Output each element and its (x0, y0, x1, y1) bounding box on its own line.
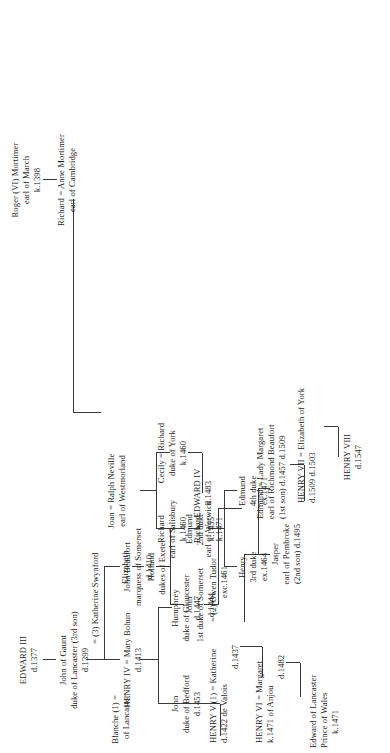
node-henry-3rd-duke: Henry 3rd duke ex.1464 (237, 533, 271, 601)
node-joan-ralph-neville: Joan = Ralph Neville earl of Westmorland (106, 439, 128, 543)
connector-henry4-bar (158, 608, 159, 704)
node-line: Richard = Anne Mortimer (56, 104, 67, 256)
connector-gaunt-left-drop (104, 659, 120, 660)
node-line: HENRY IV = Mary Bohun (122, 603, 133, 717)
node-line: duke of Bedford (181, 666, 192, 742)
node-line: Prince of Wales (319, 638, 330, 748)
node-line: earl of Pembroke (281, 511, 292, 597)
node-line: Edward of Lancaster (308, 638, 319, 748)
node-line: earl of March (21, 128, 32, 232)
node-line: d.1509 d.1503 (307, 353, 318, 503)
connector-henry6-bar (300, 663, 301, 697)
node-line: duke of Lancaster (3rd son) (69, 601, 80, 719)
node-line: d.1453 (192, 666, 203, 742)
node-owen-tudor: = (2) Owen Tudor exc.1461 (208, 522, 230, 622)
genealogy-chart: EDWARD III d.1377 Blanche (1) = of Lanca… (0, 0, 390, 753)
node-line: Cecily = Richard (156, 415, 167, 491)
connector-gaunt-bar (104, 567, 105, 660)
connector-som2-edmund (224, 490, 237, 491)
node-line: Humphrey (170, 566, 181, 650)
node-line: (1st son) d.1457 d.1509 (277, 379, 288, 519)
node-line: HENRY VI = Margaret (254, 619, 265, 743)
node-line: earl of Salisbury (167, 491, 178, 567)
node-line: John of Gaunt (58, 601, 69, 719)
node-line: d.1410 (144, 515, 155, 619)
node-line: John (184, 561, 195, 649)
node-line: Jasper (270, 511, 281, 597)
node-john-duke-of-bedford: John duke of Bedford d.1453 (170, 666, 204, 742)
node-line: 1st duke of Somerset (195, 561, 206, 649)
connector-cambridge-drop (73, 412, 101, 413)
node-line: exc.1461 (219, 522, 230, 622)
node-henry-vii-elizabeth-of-york: HENRY VII = Elizabeth of York d.1509 d.1… (296, 353, 318, 503)
connector-henry6-stem (286, 662, 300, 663)
node-henry-iv: HENRY IV = Mary Bohun d.1413 (122, 603, 144, 717)
node-richard-earl-of-cambridge: Richard = Anne Mortimer earl of Cambridg… (56, 104, 78, 256)
node-edward-of-lancaster: Edward of Lancaster Prince of Wales k.14… (308, 638, 342, 748)
node-line: d.1482 (276, 619, 287, 743)
node-line: HENRY V (1) = Katherine (208, 611, 219, 743)
node-line: HENRY VII = Elizabeth of York (296, 353, 307, 503)
node-line: John (170, 666, 181, 742)
node-cecily-richard-duke-of-york: Cecily = Richard duke of York k.1460 (156, 415, 190, 491)
node-edward-iii: EDWARD III d.1377 (18, 620, 40, 700)
node-line: earl of Westmorland (117, 439, 128, 543)
node-jasper-earl-of-pembroke: Jasper earl of Pembroke (2nd son) d.1495 (270, 511, 304, 597)
node-line: d.1377 (29, 620, 40, 700)
node-line: = (2) Owen Tudor (208, 522, 219, 622)
node-line: Edmund (237, 457, 248, 525)
node-line: Edmund (184, 495, 195, 563)
node-henry-vi-margaret-of-anjou: HENRY VI = Margaret k.1471 of Anjou d.14… (254, 619, 288, 743)
connector-edward3-gaunt (43, 659, 56, 660)
node-line: Henry (237, 533, 248, 601)
node-line: d.1413 (133, 603, 144, 717)
node-line: k.1471 (330, 638, 341, 748)
connector-york-stem (188, 452, 202, 453)
node-line: earl of Cambridge (67, 104, 78, 256)
node-line: Richard (156, 491, 167, 567)
connector-henry7-bar (338, 427, 339, 457)
rotated-page-wrapper: EDWARD III d.1377 Blanche (1) = of Lanca… (0, 0, 390, 753)
node-line: EDWARD III (18, 620, 29, 700)
connector-joan-stem (140, 490, 156, 491)
node-line: HENRY VIII (342, 419, 353, 495)
node-line: d.1437 (230, 611, 241, 743)
node-line: earl of Richmond Beaufort (266, 379, 277, 519)
connector-gaunt-right-drop (104, 566, 120, 567)
node-line: ex.1464 (259, 533, 270, 601)
node-line: marquess of Somerset (133, 515, 144, 619)
node-line: = (3) Katherine Swynford (90, 514, 101, 644)
node-henry-viii: HENRY VIII d.1547 (342, 419, 364, 495)
node-line: k.1460 (178, 415, 189, 491)
node-line: (2nd son) d.1495 (292, 511, 303, 597)
node-edmund-earl-of-richmond-margaret-beaufort: Edmund = Lady Margaret earl of Richmond … (255, 379, 289, 519)
node-henry-v-katherine-de-valois: HENRY V (1) = Katherine d.1422 de Valois… (208, 611, 242, 743)
connector-henry7-stem (324, 426, 338, 427)
node-line: Joan = Ralph Neville (106, 439, 117, 543)
node-roger-mortimer: Roger (VI) Mortimer earl of March k.1398 (10, 128, 44, 232)
node-john-of-gaunt: John of Gaunt duke of Lancaster (3rd son… (58, 601, 92, 719)
node-line: 3rd duke (248, 533, 259, 601)
node-line: Roger (VI) Mortimer (10, 128, 21, 232)
connector-roger-anne (43, 179, 57, 180)
node-line: k.1471 of Anjou (265, 619, 276, 743)
node-line: Edmund = Lady Margaret (255, 379, 266, 519)
node-line: Blanche (1) = (110, 695, 121, 753)
node-line: duke of York (167, 415, 178, 491)
node-line: k.1398 (32, 128, 43, 232)
node-line: d.1422 de Valois (219, 611, 230, 743)
node-katherine-swynford: = (3) Katherine Swynford (90, 514, 101, 644)
node-line: 2nd duke (195, 495, 206, 563)
node-line: d.1547 (353, 419, 364, 495)
